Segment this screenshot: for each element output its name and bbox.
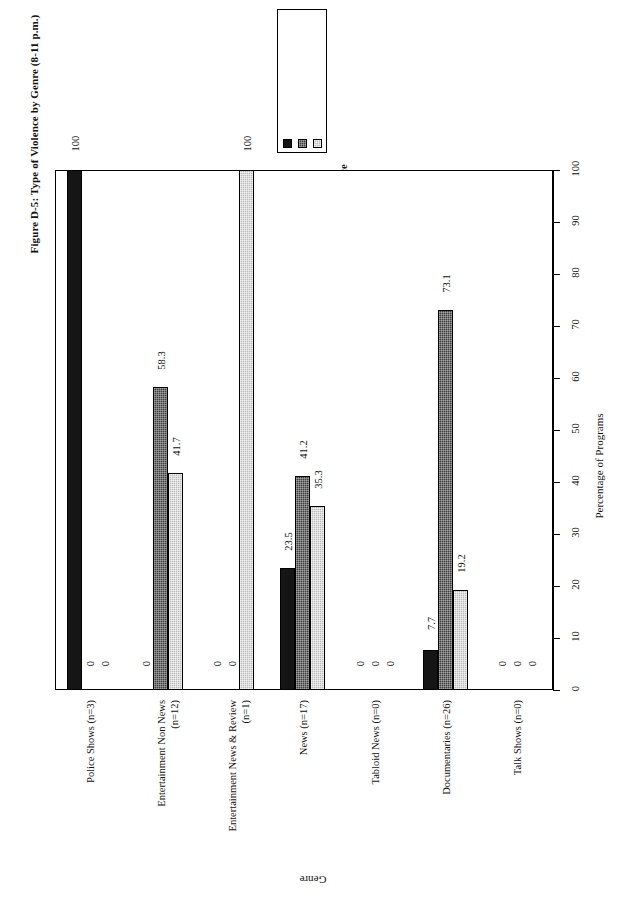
bar-group: 23.541.235.3 [280, 170, 325, 690]
bar-value-label: 0 [85, 644, 96, 684]
figure-canvas: Figure D-5: Type of Violence by Genre (8… [0, 0, 620, 923]
bar [153, 387, 168, 690]
axis-tick-label: 60 [570, 364, 581, 390]
bar [438, 310, 453, 690]
bar-value-label: 0 [141, 644, 152, 684]
axis-tick [553, 222, 560, 223]
category-label-line: Police Shows (n=3) [85, 700, 97, 850]
axis-tick [553, 274, 560, 275]
bar-value-label: 0 [369, 644, 380, 684]
bar-value-label: 0 [384, 644, 395, 684]
legend-item[interactable]: No Violence [311, 9, 327, 153]
axis-tick-label: 30 [570, 520, 581, 546]
bar-value-label: 41.7 [171, 427, 182, 467]
bar-value-label: 73.1 [440, 263, 451, 303]
axis-tick-label: 100 [570, 156, 581, 182]
category-label-line: Entertainment News & Review [227, 700, 239, 850]
bar [295, 476, 310, 690]
category-label-line: (n=1) [240, 700, 252, 850]
axis-tick [553, 638, 560, 639]
bar-value-label: 0 [212, 644, 223, 684]
legend-item[interactable]: Visual Violence [296, 9, 312, 153]
axis-tick [553, 482, 560, 483]
bar-value-label: 0 [511, 644, 522, 684]
bar-value-label: 100 [242, 124, 253, 164]
axis-tick-label: 20 [570, 572, 581, 598]
axis-tick [553, 170, 560, 171]
axis-tick [553, 690, 560, 691]
bar-value-label: 7.7 [425, 603, 436, 643]
bar [280, 568, 295, 690]
axis-tick [553, 378, 560, 379]
bar-group: 000 [494, 170, 539, 690]
bar [310, 506, 325, 690]
bar-group: 000 [352, 170, 397, 690]
category-label-line: Entertainment Non News [156, 700, 168, 850]
legend-swatch-icon [313, 139, 322, 148]
bar-value-label: 23.5 [283, 521, 294, 561]
axis-tick [553, 326, 560, 327]
category-label-line: Documentaries (n=26) [441, 700, 453, 850]
axis-tick-label: 50 [570, 416, 581, 442]
axis-tick-label: 40 [570, 468, 581, 494]
bar-value-label: 100 [70, 124, 81, 164]
bar [423, 650, 438, 690]
category-label-line: Tabloid News (n=0) [370, 700, 382, 850]
bar [67, 170, 82, 690]
bar-value-label: 0 [496, 644, 507, 684]
category-label-line: News (n=17) [298, 700, 310, 850]
bar [239, 170, 254, 690]
axis-tick-label: 70 [570, 312, 581, 338]
axis-tick-label: 90 [570, 208, 581, 234]
figure-title: Figure D-5: Type of Violence by Genre (8… [28, 14, 40, 254]
axis-tick-label: 80 [570, 260, 581, 286]
bar-value-label: 35.3 [313, 460, 324, 500]
bar [168, 473, 183, 690]
category-label-line: Talk Shows (n=0) [512, 700, 524, 850]
legend-swatch-icon [283, 139, 292, 148]
legend-swatch-icon [298, 139, 307, 148]
category-label-line: (n=12) [169, 700, 181, 850]
category-axis-title: Genre [283, 874, 343, 886]
axis-tick-label: 0 [570, 676, 581, 702]
axis-tick-label: 10 [570, 624, 581, 650]
bar-value-label: 0 [100, 644, 111, 684]
axis-tick [553, 586, 560, 587]
bar [453, 590, 468, 690]
bar-value-label: 0 [227, 644, 238, 684]
legend-item[interactable]: Talk About Violence [281, 9, 297, 153]
bar-value-label: 41.2 [298, 429, 309, 469]
bar-value-label: 19.2 [455, 544, 466, 584]
bar-group: 058.341.7 [138, 170, 183, 690]
bar-value-label: 0 [354, 644, 365, 684]
bar-value-label: 0 [526, 644, 537, 684]
bar-group: 00100 [209, 170, 254, 690]
axis-tick [553, 534, 560, 535]
axis-tick [553, 430, 560, 431]
bar-group: 7.773.119.2 [423, 170, 468, 690]
bar-group: 10000 [67, 170, 112, 690]
value-axis-title: Percentage of Programs [593, 396, 605, 536]
bar-value-label: 58.3 [156, 340, 167, 380]
